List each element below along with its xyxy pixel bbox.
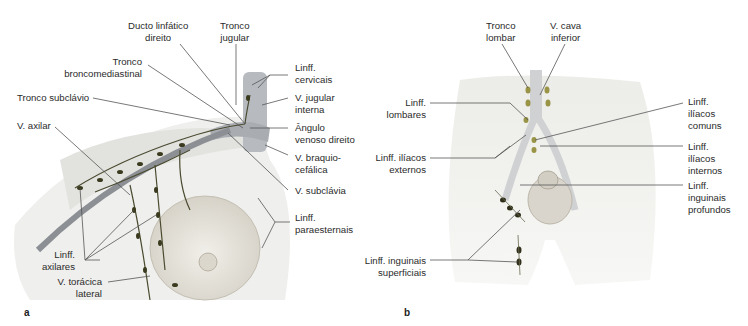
label-line: Linff. xyxy=(295,62,332,74)
label-line: profundos xyxy=(688,204,731,216)
label-ducto-linfatico-direito: Ducto linfático direito xyxy=(128,20,188,44)
label-line: internos xyxy=(688,165,722,177)
label-line: venoso direito xyxy=(295,134,355,146)
panel-letter-b: b xyxy=(404,307,410,318)
label-line: Tronco xyxy=(486,20,516,32)
label-linff-iliacos-internos: Linff. ilíacos internos xyxy=(688,141,722,177)
label-line: axilares xyxy=(30,261,75,273)
label-v-toracica-lateral: V. torácica lateral xyxy=(40,276,102,300)
label-linff-inguinais-superficiais: Linff. inguinais superficiais xyxy=(350,255,426,279)
label-linff-axilares: Linff. axilares xyxy=(30,249,75,273)
label-line: lombar xyxy=(486,32,516,44)
label-line: Linff. xyxy=(688,96,722,108)
panel-letter-a: a xyxy=(24,307,30,318)
label-linff-iliacos-externos: Linff. ilíacos externos xyxy=(356,152,426,176)
label-line: Linff. xyxy=(30,249,75,261)
label-line: broncomediastinal xyxy=(62,68,142,80)
label-tronco-jugular: Tronco jugular xyxy=(220,20,250,44)
label-line: interna xyxy=(295,104,335,116)
label-v-braquiocefalica: V. braquio- cefálica xyxy=(295,152,341,176)
label-line: comuns xyxy=(688,120,722,132)
label-linff-inguinais-profundos: Linff. inguinais profundos xyxy=(688,180,731,216)
label-line: Tronco xyxy=(62,56,142,68)
label-line: Tronco xyxy=(220,20,250,32)
label-line: externos xyxy=(356,164,426,176)
label-line: Linff. ilíacos xyxy=(356,152,426,164)
label-linff-iliacos-comuns: Linff. ilíacos comuns xyxy=(688,96,722,132)
label-line: V. braquio- xyxy=(295,152,341,164)
label-line: V. torácica xyxy=(40,276,102,288)
label-line: Ângulo xyxy=(295,122,355,134)
label-v-axilar: V. axilar xyxy=(17,120,51,132)
label-line: direito xyxy=(128,32,188,44)
label-line: lateral xyxy=(40,288,102,300)
label-line: ilíacos xyxy=(688,108,722,120)
label-line: inguinais xyxy=(688,192,731,204)
label-linff-lombares: Linff. lombares xyxy=(370,97,426,121)
label-line: V. jugular xyxy=(295,92,335,104)
label-tronco-subclavio: Tronco subclávio xyxy=(17,92,89,104)
label-line: cervicais xyxy=(295,74,332,86)
label-line: Linff. xyxy=(688,141,722,153)
label-line: Linff. inguinais xyxy=(350,255,426,267)
label-line: V. cava xyxy=(550,20,581,32)
label-angulo-venoso-direito: Ângulo venoso direito xyxy=(295,122,355,146)
label-v-cava-inferior: V. cava inferior xyxy=(550,20,581,44)
label-v-subclavia: V. subclávia xyxy=(295,185,346,197)
label-linff-paraesternais: Linff. paraesternais xyxy=(295,212,353,236)
label-line: paraesternais xyxy=(295,224,353,236)
label-line: jugular xyxy=(220,32,250,44)
label-line: Linff. xyxy=(688,180,731,192)
label-line: cefálica xyxy=(295,164,341,176)
label-line: Ducto linfático xyxy=(128,20,188,32)
label-line: lombares xyxy=(370,109,426,121)
label-linff-cervicais: Linff. cervicais xyxy=(295,62,332,86)
label-line: ilíacos xyxy=(688,153,722,165)
label-tronco-broncomediastinal: Tronco broncomediastinal xyxy=(62,56,142,80)
panel-b-illustration xyxy=(449,70,656,285)
label-v-jugular-interna: V. jugular interna xyxy=(295,92,335,116)
label-line: superficiais xyxy=(350,267,426,279)
label-line: Linff. xyxy=(370,97,426,109)
label-line: Linff. xyxy=(295,212,353,224)
label-line: inferior xyxy=(550,32,581,44)
label-tronco-lombar: Tronco lombar xyxy=(486,20,516,44)
